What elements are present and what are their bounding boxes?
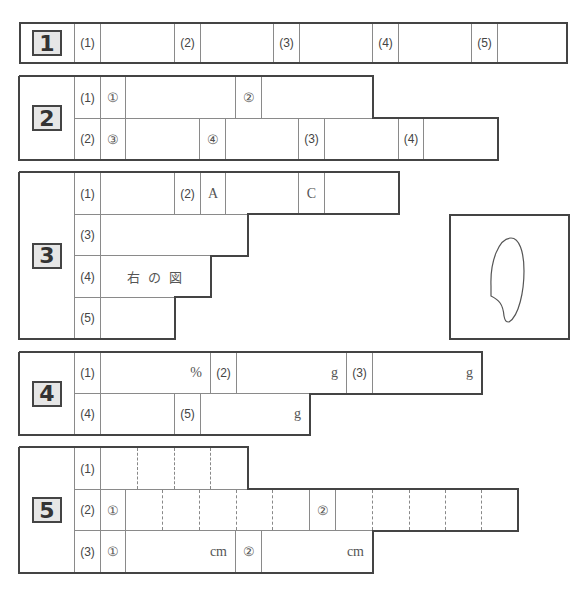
q3-3-answer[interactable] — [100, 214, 248, 256]
section-number-badge: 5 — [32, 497, 62, 523]
q2-2-sub4-label: ④ — [199, 118, 226, 160]
q5-2-sub2-answer-grid[interactable] — [335, 489, 518, 531]
cm-unit: cm — [347, 544, 364, 560]
q5-3-label: (3) — [74, 530, 101, 573]
q3-1-label: (1) — [74, 172, 101, 215]
q1-1-answer[interactable] — [100, 22, 175, 64]
q2-4-label: (4) — [398, 118, 424, 160]
section-3-number-cell: 3 — [19, 172, 75, 339]
q1-5-label: (5) — [471, 22, 498, 64]
q5-3-sub1-answer[interactable]: cm — [125, 530, 236, 573]
leaf-outline-icon — [451, 216, 568, 338]
q2-2-sub3-label: ③ — [100, 118, 126, 160]
q5-2-sub1-label: ① — [100, 489, 126, 531]
figure-box[interactable] — [449, 214, 570, 340]
q5-1-label: (1) — [74, 447, 101, 490]
section-4-number-cell: 4 — [19, 352, 75, 435]
section-1-number-cell: 1 — [19, 22, 75, 64]
section-number-badge: 3 — [32, 243, 62, 269]
grid-divider — [174, 448, 175, 489]
section-number-badge: 1 — [32, 30, 62, 56]
q4-1-answer[interactable]: % — [100, 352, 211, 394]
q2-2-sub3-answer[interactable] — [125, 118, 200, 160]
gram-unit: g — [466, 365, 473, 381]
q1-1-label: (1) — [74, 22, 101, 64]
q2-2-label: (2) — [74, 118, 101, 160]
q5-3-sub2-label: ② — [235, 530, 262, 573]
q2-1-sub2-label: ② — [235, 76, 262, 119]
grid-divider — [137, 448, 138, 489]
q3-4-answer-note: 右 の 図 — [100, 255, 211, 298]
q4-5-answer[interactable]: g — [200, 393, 310, 435]
section-2-number-cell: 2 — [19, 76, 75, 160]
gram-unit: g — [331, 365, 338, 381]
q1-5-answer[interactable] — [497, 22, 567, 64]
cm-unit: cm — [210, 544, 227, 560]
q3-5-label: (5) — [74, 297, 101, 339]
gram-unit: g — [294, 406, 301, 422]
grid-divider — [445, 490, 446, 530]
q5-3-sub2-answer[interactable]: cm — [261, 530, 373, 573]
q2-3-answer[interactable] — [324, 118, 399, 160]
section-number-badge: 4 — [32, 381, 62, 407]
q4-1-label: (1) — [74, 352, 101, 394]
grid-divider — [481, 490, 482, 530]
q4-5-label: (5) — [174, 393, 201, 435]
q3-2-label: (2) — [174, 172, 201, 215]
q4-2-label: (2) — [210, 352, 237, 394]
section-5-number-cell: 5 — [19, 447, 75, 573]
q4-2-answer[interactable]: g — [236, 352, 347, 394]
grid-divider — [409, 490, 410, 530]
q3-2-a-label: A — [200, 172, 226, 215]
q3-2-a-answer[interactable] — [225, 172, 299, 215]
q3-5-answer[interactable] — [100, 297, 175, 339]
grid-divider — [236, 490, 237, 530]
q1-4-answer[interactable] — [398, 22, 472, 64]
q1-3-label: (3) — [273, 22, 300, 64]
grid-divider — [162, 490, 163, 530]
q1-3-answer[interactable] — [299, 22, 373, 64]
q5-2-label: (2) — [74, 489, 101, 531]
q2-3-label: (3) — [298, 118, 325, 160]
q5-2-sub2-label: ② — [309, 489, 336, 531]
grid-divider — [372, 490, 373, 530]
q2-1-label: (1) — [74, 76, 101, 119]
q3-2-c-answer[interactable] — [324, 172, 399, 215]
q4-3-answer[interactable]: g — [372, 352, 482, 394]
q2-2-sub4-answer[interactable] — [225, 118, 299, 160]
q1-4-label: (4) — [372, 22, 399, 64]
q3-2-c-label: C — [298, 172, 325, 215]
q4-4-label: (4) — [74, 393, 101, 435]
q5-3-sub1-label: ① — [100, 530, 126, 573]
percent-unit: % — [190, 365, 202, 381]
q3-3-label: (3) — [74, 214, 101, 256]
q1-2-answer[interactable] — [200, 22, 274, 64]
q1-2-label: (2) — [174, 22, 201, 64]
q2-4-answer[interactable] — [423, 118, 498, 160]
q2-1-sub1-label: ① — [100, 76, 126, 119]
q4-3-label: (3) — [346, 352, 373, 394]
grid-divider — [210, 448, 211, 489]
q4-4-answer[interactable] — [100, 393, 175, 435]
q3-1-answer[interactable] — [100, 172, 175, 215]
q2-1-sub1-answer[interactable] — [125, 76, 236, 119]
q3-4-label: (4) — [74, 255, 101, 298]
q5-2-sub1-answer-grid[interactable] — [125, 489, 310, 531]
grid-divider — [199, 490, 200, 530]
grid-divider — [272, 490, 273, 530]
q2-1-sub2-answer[interactable] — [261, 76, 373, 119]
section-number-badge: 2 — [32, 105, 62, 131]
